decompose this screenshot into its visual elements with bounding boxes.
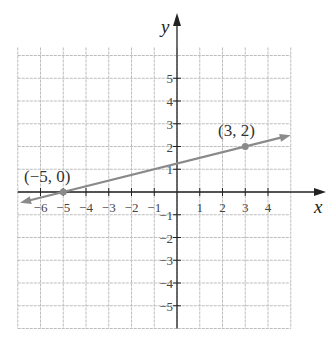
x-tick-label: 4 (265, 200, 272, 215)
point-label-a: (−5, 0) (24, 167, 70, 186)
x-tick-label: −4 (79, 200, 93, 215)
line-arrow-left-icon (20, 196, 32, 204)
x-tick-label: 3 (242, 200, 249, 215)
line-arrow-right-icon (279, 134, 291, 142)
x-axis-arrow-icon (314, 188, 326, 196)
point-label-b: (3, 2) (218, 121, 255, 140)
data-point (60, 189, 67, 196)
y-tick-label: 3 (167, 117, 174, 132)
coordinate-plane: −6−5−4−3−2−1123454321−1−2−3−4−5 y x (−5,… (0, 0, 331, 347)
x-tick-label: 2 (219, 200, 226, 215)
x-tick-label: −5 (56, 200, 70, 215)
y-tick-label: 4 (167, 94, 174, 109)
y-tick-label: 2 (167, 140, 174, 155)
y-axis-label: y (159, 16, 170, 37)
y-tick-label: −3 (159, 253, 173, 268)
y-tick-label: −4 (159, 276, 173, 291)
y-tick-label: −1 (159, 208, 173, 223)
x-tick-label: −3 (102, 200, 116, 215)
y-tick-label: −2 (159, 231, 173, 246)
y-tick-label: 5 (167, 71, 174, 86)
x-tick-label: −6 (34, 200, 48, 215)
data-point (242, 143, 249, 150)
x-tick-label: 1 (197, 200, 204, 215)
y-axis-arrow-icon (173, 13, 181, 26)
y-tick-label: −5 (159, 299, 173, 314)
x-axis-label: x (313, 196, 323, 217)
x-tick-label: −2 (125, 200, 139, 215)
